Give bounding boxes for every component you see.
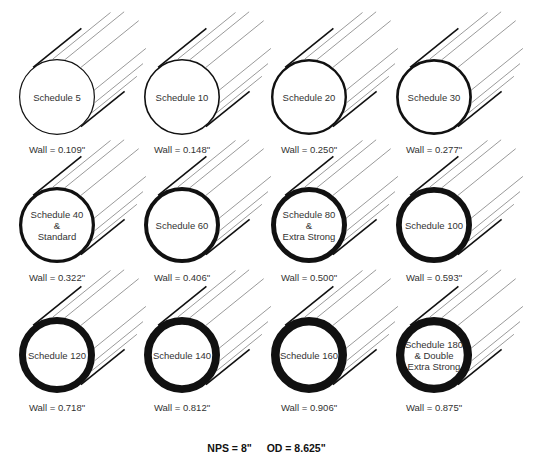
- schedule-label-line: Extra Strong: [394, 361, 474, 372]
- schedule-label-line: Schedule 180: [394, 339, 474, 350]
- footer-caption: NPS = 8" OD = 8.625": [0, 442, 533, 454]
- nps-label: NPS = 8": [207, 442, 251, 454]
- pipe-drawing-icon: [0, 0, 533, 463]
- wall-thickness-label: Wall = 0.875": [374, 402, 494, 413]
- pipe-cell: [0, 0, 133, 130]
- pipe-schedule-diagram: Schedule 5Wall = 0.109"Schedule 10Wall =…: [0, 0, 533, 463]
- od-label: OD = 8.625": [267, 442, 326, 454]
- schedule-label: Schedule 180& DoubleExtra Strong: [394, 339, 474, 372]
- schedule-label-line: & Double: [394, 350, 474, 361]
